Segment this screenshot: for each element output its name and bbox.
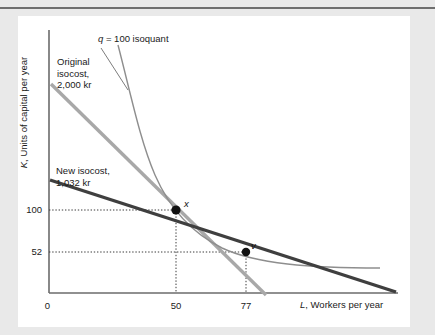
- original-isocost-line-3: 2,000 kr: [57, 79, 91, 91]
- x-tick-label-50: 50: [165, 300, 187, 311]
- point-v-marker: [242, 248, 250, 256]
- point-x-marker: [171, 205, 180, 214]
- y-axis-title-text: , Units of capital per year: [18, 57, 29, 162]
- point-v-label: v: [251, 240, 256, 251]
- y-axis-symbol: K: [18, 162, 29, 168]
- y-tick-label-52: 52: [14, 246, 42, 257]
- new-isocost-line: [50, 180, 396, 292]
- new-isocost-annotation: New isocost, 1,032 kr: [56, 165, 110, 188]
- y-tick-label-100: 100: [14, 204, 42, 215]
- y-axis-title: K, Units of capital per year: [18, 43, 29, 183]
- isoquant-annotation-text: = 100 isoquant: [103, 33, 168, 44]
- original-isocost-line-1: Original: [57, 56, 91, 68]
- x-axis-title-text: , Workers per year: [305, 299, 383, 310]
- x-axis-title: L, Workers per year: [300, 299, 383, 310]
- original-isocost-line-2: isocost,: [57, 68, 91, 80]
- isoquant-annotation: q = 100 isoquant: [98, 33, 169, 45]
- point-x-label: x: [184, 198, 189, 209]
- origin-label: 0: [34, 300, 50, 311]
- x-tick-label-77: 77: [235, 300, 257, 311]
- new-isocost-line-1: New isocost,: [56, 165, 110, 177]
- new-isocost-line-2: 1,032 kr: [56, 177, 110, 189]
- isoquant-curve: [118, 45, 380, 268]
- original-isocost-annotation: Original isocost, 2,000 kr: [57, 56, 91, 91]
- figure-container: K, Units of capital per year L, Workers …: [0, 0, 435, 335]
